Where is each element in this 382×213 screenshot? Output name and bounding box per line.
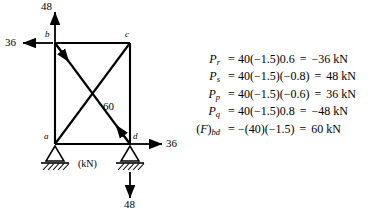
node-label-c: c: [125, 30, 129, 39]
equation-subscript: r: [217, 57, 220, 67]
equation-result: −36 kN: [312, 52, 348, 67]
equals-sign-1: =: [225, 104, 238, 119]
equation-subscript: s: [217, 75, 220, 85]
equals-sign-2: =: [295, 122, 312, 137]
force-label-b-left: 36: [5, 37, 16, 48]
force-label-b-up: 48: [41, 1, 52, 12]
equation-expression: 40(−1.5)(−0.6): [238, 87, 310, 102]
equals-sign-2: =: [310, 69, 327, 84]
equation-symbol: P: [209, 52, 216, 66]
bd-arrow-lower: [116, 125, 130, 144]
equation-symbol: P: [208, 87, 215, 101]
equals-sign-2: =: [295, 52, 312, 67]
equation-symbol: P: [208, 104, 215, 118]
equation-lhs: Pp: [176, 87, 225, 102]
equals-sign-1: =: [225, 52, 238, 67]
truss-diagram-svg: [0, 0, 191, 213]
equation-result: −48 kN: [312, 104, 348, 119]
equation-subscript: p: [216, 92, 220, 102]
truss-figure: b c a d 48 36 36 48 60 (kN): [0, 0, 191, 213]
support-a-hatching: [43, 164, 69, 171]
equation-expression: 40(−1.5)0.6: [238, 52, 295, 67]
equation-row: (F)bd = −(40)(−1.5) = 60 kN: [176, 122, 382, 139]
support-a-triangle: [46, 146, 64, 161]
support-d-triangle: [121, 146, 139, 161]
equals-sign-2: =: [295, 104, 312, 119]
external-force-arrows: [23, 12, 162, 198]
equation-result: 36 kN: [326, 87, 356, 102]
member-force-label-60: 60: [103, 101, 114, 112]
equation-result: 48 kN: [326, 69, 356, 84]
equation-symbol: F: [200, 122, 207, 136]
equation-row: Pq = 40(−1.5)0.8 = −48 kN: [176, 104, 382, 121]
node-label-b: b: [45, 30, 50, 39]
force-label-d-down: 48: [124, 199, 135, 210]
support-d-hatching: [118, 164, 144, 171]
equation-subscript: bd: [212, 127, 221, 137]
equation-subscript: q: [216, 110, 220, 120]
equation-row: Ps = 40(−1.5)(−0.8) = 48 kN: [176, 69, 382, 86]
equation-lhs: (F)bd: [176, 122, 225, 137]
force-label-d-right: 36: [166, 138, 177, 149]
equals-sign-2: =: [310, 87, 327, 102]
equation-expression: 40(−1.5)(−0.8): [238, 69, 310, 84]
equation-lhs: Pr: [176, 52, 225, 67]
equation-lhs: Ps: [176, 69, 225, 84]
equation-row: Pp = 40(−1.5)(−0.6) = 36 kN: [176, 87, 382, 104]
equals-sign-1: =: [225, 69, 238, 84]
support-d: [116, 146, 144, 170]
unit-label: (kN): [78, 159, 97, 169]
equation-expression: 40(−1.5)0.8: [238, 104, 295, 119]
node-label-a: a: [44, 132, 49, 141]
equation-symbol: P: [209, 69, 216, 83]
equations-block: Pr = 40(−1.5)0.6 = −36 kN Ps = 40(−1.5)(…: [176, 52, 382, 139]
figure-page: b c a d 48 36 36 48 60 (kN) Pr = 40(−1.5…: [0, 0, 382, 213]
bd-arrow-upper: [55, 43, 69, 62]
equation-lhs: Pq: [176, 104, 225, 119]
equals-sign-1: =: [225, 122, 238, 137]
node-label-d: d: [133, 132, 138, 141]
equation-result: 60 kN: [311, 122, 341, 137]
support-a: [41, 146, 69, 170]
equation-row: Pr = 40(−1.5)0.6 = −36 kN: [176, 52, 382, 69]
equals-sign-1: =: [225, 87, 238, 102]
equation-expression: −(40)(−1.5): [238, 122, 295, 137]
